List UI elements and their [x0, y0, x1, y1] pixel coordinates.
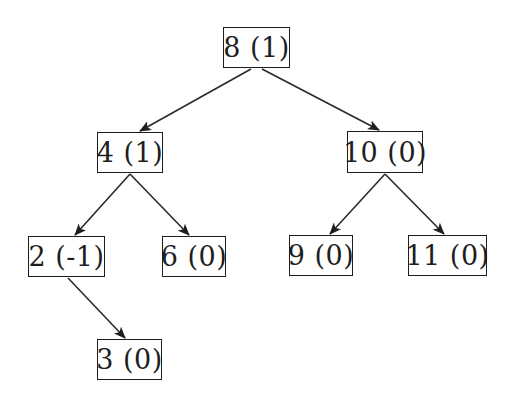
tree-node-9: 9 (0): [289, 235, 353, 276]
tree-node-2: 2 (-1): [28, 236, 105, 277]
edge-4-to-6: [130, 174, 189, 235]
edge-10-to-11: [385, 174, 444, 234]
tree-node-11: 11 (0): [408, 235, 487, 276]
edge-4-to-2: [75, 174, 130, 235]
edge-8-to-4: [140, 69, 251, 131]
edge-8-to-10: [262, 69, 379, 130]
tree-node-6: 6 (0): [162, 236, 226, 277]
edge-10-to-9: [330, 174, 385, 234]
avl-tree-diagram: 8 (1) 4 (1) 10 (0) 2 (-1) 6 (0) 9 (0) 11…: [0, 0, 514, 398]
tree-node-3: 3 (0): [97, 339, 162, 380]
tree-node-4: 4 (1): [97, 132, 163, 173]
edge-2-to-3: [68, 278, 125, 338]
tree-node-10: 10 (0): [347, 131, 423, 173]
tree-node-8: 8 (1): [223, 27, 290, 68]
